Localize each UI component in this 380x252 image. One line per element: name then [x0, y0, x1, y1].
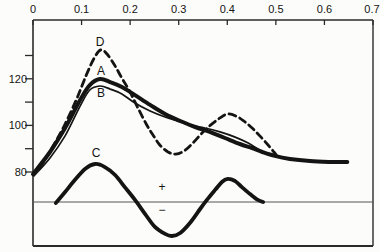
x-tick-label: 0 — [30, 3, 36, 15]
curve-label-B: B — [97, 86, 105, 100]
y-tick-label: 120 — [9, 73, 27, 85]
chart-figure: 00.10.20.30.40.50.60.712010080DABC+− — [0, 0, 380, 252]
x-tick-label: 0.6 — [317, 3, 332, 15]
curve-label-A: A — [97, 64, 105, 78]
curve-B — [34, 86, 262, 176]
line-chart-svg: 00.10.20.30.40.50.60.712010080DABC+− — [0, 0, 380, 252]
minus-sign-label: − — [158, 203, 165, 217]
curve-label-C: C — [92, 146, 101, 160]
y-tick-label: 80 — [15, 166, 27, 178]
curve-label-D: D — [96, 35, 105, 49]
x-tick-label: 0.2 — [122, 3, 137, 15]
x-tick-label: 0.5 — [268, 3, 283, 15]
x-tick-label: 0.1 — [74, 3, 89, 15]
x-tick-label: 0.3 — [171, 3, 186, 15]
x-tick-label: 0.7 — [364, 3, 379, 15]
curve-C — [56, 164, 263, 236]
plus-sign-label: + — [158, 180, 165, 194]
y-tick-label: 100 — [9, 119, 27, 131]
x-tick-label: 0.4 — [220, 3, 235, 15]
